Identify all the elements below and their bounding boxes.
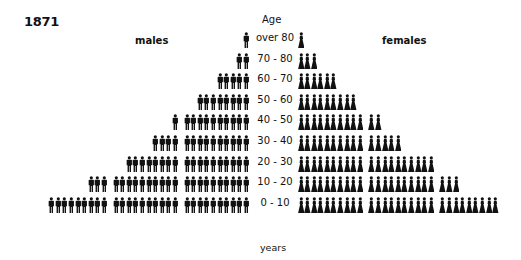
males-bar (85, 172, 252, 192)
male-figure-icon (230, 73, 237, 89)
figure-group (298, 53, 318, 69)
male-figure-icon (146, 197, 153, 213)
female-figure-icon (388, 156, 395, 172)
figure-group (298, 176, 364, 192)
male-figure-icon (243, 135, 250, 151)
female-figure-icon (337, 94, 344, 110)
female-figure-icon (421, 197, 428, 213)
female-figure-icon (317, 156, 324, 172)
figure-group (368, 197, 434, 213)
female-figure-icon (375, 197, 382, 213)
female-figure-icon (388, 176, 395, 192)
female-figure-icon (428, 176, 435, 192)
female-figure-icon (311, 94, 318, 110)
females-bar (295, 69, 340, 89)
age-label: 70 - 80 (255, 53, 295, 64)
females-bar (295, 152, 437, 172)
female-figure-icon (350, 197, 357, 213)
male-figure-icon (159, 197, 166, 213)
female-figure-icon (304, 73, 311, 89)
female-figure-icon (401, 156, 408, 172)
males-bar (194, 90, 252, 110)
female-figure-icon (298, 53, 305, 69)
figure-group (368, 135, 401, 151)
male-figure-icon (126, 156, 133, 172)
male-figure-icon (210, 176, 217, 192)
female-figure-icon (304, 197, 311, 213)
females-bar (295, 110, 384, 130)
age-label: 60 - 70 (255, 73, 295, 84)
male-figure-icon (236, 53, 243, 69)
male-figure-icon (230, 156, 237, 172)
chart-title: 1871 (24, 14, 59, 29)
female-figure-icon (304, 94, 311, 110)
male-figure-icon (236, 176, 243, 192)
male-figure-icon (223, 114, 230, 130)
males-bar (123, 152, 252, 172)
male-figure-icon (184, 197, 191, 213)
age-label: 0 - 10 (255, 197, 295, 208)
male-figure-icon (243, 94, 250, 110)
age-label: 10 - 20 (255, 176, 295, 187)
male-figure-icon (210, 114, 217, 130)
female-figure-icon (415, 176, 422, 192)
female-figure-icon (298, 197, 305, 213)
pyramid-row: 30 - 40 (0, 131, 521, 151)
female-figure-icon (357, 135, 364, 151)
male-figure-icon (210, 197, 217, 213)
male-figure-icon (152, 135, 159, 151)
figure-group (298, 197, 364, 213)
male-figure-icon (197, 135, 204, 151)
female-figure-icon (466, 197, 473, 213)
age-label: 50 - 60 (255, 94, 295, 105)
female-figure-icon (330, 114, 337, 130)
male-figure-icon (139, 156, 146, 172)
female-figure-icon (317, 176, 324, 192)
figure-group (126, 156, 179, 172)
female-figure-icon (337, 197, 344, 213)
male-figure-icon (61, 197, 68, 213)
male-figure-icon (101, 176, 108, 192)
male-figure-icon (159, 156, 166, 172)
male-figure-icon (230, 197, 237, 213)
female-figure-icon (298, 156, 305, 172)
figure-group (298, 73, 338, 89)
male-figure-icon (217, 94, 224, 110)
male-figure-icon (197, 197, 204, 213)
figure-group (217, 73, 250, 89)
female-figure-icon (311, 53, 318, 69)
female-figure-icon (415, 197, 422, 213)
figure-group (172, 114, 179, 130)
female-figure-icon (311, 176, 318, 192)
male-figure-icon (139, 197, 146, 213)
female-figure-icon (472, 197, 479, 213)
male-figure-icon (184, 135, 191, 151)
male-figure-icon (203, 197, 210, 213)
female-figure-icon (459, 197, 466, 213)
female-figure-icon (324, 197, 331, 213)
male-figure-icon (94, 176, 101, 192)
figure-group (113, 197, 179, 213)
female-figure-icon (298, 94, 305, 110)
female-figure-icon (324, 94, 331, 110)
male-figure-icon (172, 176, 179, 192)
female-figure-icon (304, 176, 311, 192)
figure-group (184, 135, 250, 151)
male-figure-icon (203, 176, 210, 192)
male-figure-icon (223, 73, 230, 89)
female-figure-icon (304, 135, 311, 151)
female-figure-icon (492, 197, 499, 213)
female-figure-icon (330, 73, 337, 89)
male-figure-icon (203, 94, 210, 110)
male-figure-icon (146, 156, 153, 172)
female-figure-icon (350, 176, 357, 192)
female-figure-icon (324, 156, 331, 172)
figure-group (48, 197, 107, 213)
pyramid-row: 10 - 20 (0, 172, 521, 192)
female-figure-icon (382, 135, 389, 151)
female-figure-icon (368, 176, 375, 192)
female-figure-icon (337, 156, 344, 172)
male-figure-icon (190, 156, 197, 172)
female-figure-icon (439, 176, 446, 192)
male-figure-icon (236, 197, 243, 213)
